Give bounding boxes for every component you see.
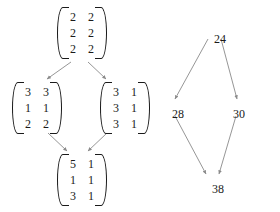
number-node-middle-right: 30 xyxy=(233,107,245,121)
right-parenthesis xyxy=(56,81,63,135)
edge-top-to-middle-left xyxy=(175,39,208,99)
right-parenthesis xyxy=(101,6,108,60)
left-parenthesis xyxy=(56,6,63,60)
edge-middle-left-to-bottom xyxy=(175,116,206,174)
left-parenthesis xyxy=(56,153,63,207)
edge-middle-left-to-bottom xyxy=(48,133,67,151)
matrix-bottom: 511131 xyxy=(56,153,108,207)
edge-top-to-middle-left xyxy=(47,62,71,79)
edge-middle-right-to-bottom xyxy=(88,133,107,151)
right-parenthesis xyxy=(144,81,151,135)
edge-middle-right-to-bottom xyxy=(219,116,236,174)
number-lattice-edges xyxy=(175,39,237,174)
matrix-top: 222222 xyxy=(56,6,108,60)
number-node-bottom: 38 xyxy=(212,182,224,196)
matrix-middle-right: 313131 xyxy=(99,81,151,135)
left-parenthesis xyxy=(11,81,18,135)
matrix-middle-left: 331122 xyxy=(11,81,63,135)
number-node-middle-left: 28 xyxy=(172,107,184,121)
right-parenthesis xyxy=(101,153,108,207)
figure-canvas: 222222331122313131511131 24283038 xyxy=(0,0,280,212)
edge-top-to-middle-right xyxy=(88,62,106,79)
left-parenthesis xyxy=(99,81,106,135)
edge-top-to-middle-right xyxy=(221,39,237,99)
number-node-top: 24 xyxy=(214,32,226,46)
